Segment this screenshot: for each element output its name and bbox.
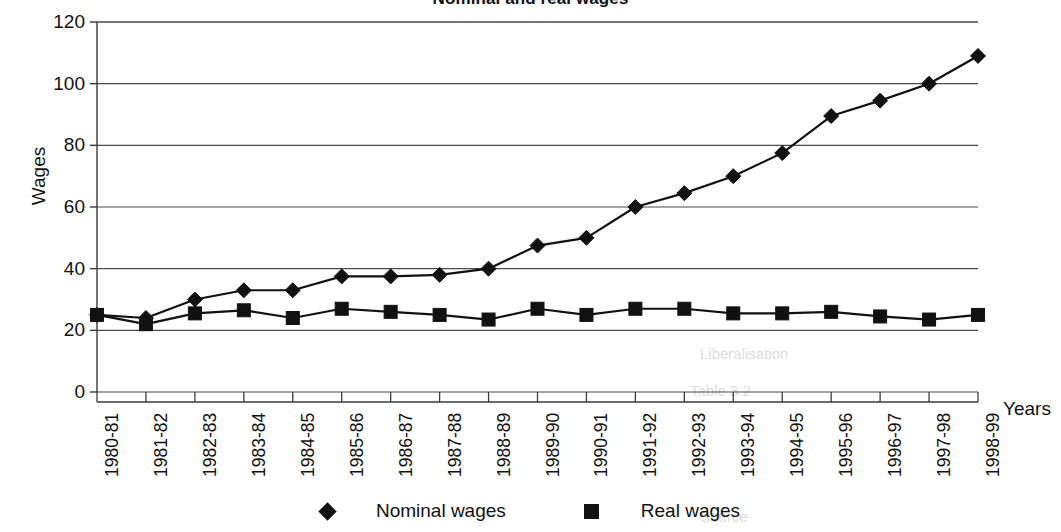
y-tick-label: 0 — [25, 382, 85, 401]
data-point-marker — [432, 267, 447, 282]
y-tick-label: 100 — [25, 74, 85, 93]
data-point-marker — [531, 302, 544, 315]
chart-title: Nominal and real wages — [0, 0, 1061, 9]
data-point-marker — [383, 269, 398, 284]
data-point-marker — [628, 200, 643, 215]
legend-label: Real wages — [641, 500, 740, 522]
data-point-marker — [873, 93, 888, 108]
data-point-marker — [727, 307, 740, 320]
x-tick-label: 1991-92 — [642, 413, 660, 477]
data-point-marker — [922, 76, 937, 91]
x-tick-label: 1988-89 — [496, 413, 514, 477]
plot-canvas — [97, 22, 978, 392]
data-point-marker — [580, 308, 593, 321]
chart-figure: Nominal and real wages LiberalisationTab… — [0, 0, 1061, 532]
data-point-marker — [236, 283, 251, 298]
x-tick-label: 1997-98 — [936, 413, 954, 477]
data-point-marker — [139, 318, 152, 331]
data-point-marker — [825, 305, 838, 318]
data-point-marker — [482, 313, 495, 326]
data-point-marker — [726, 169, 741, 184]
data-point-marker — [91, 308, 104, 321]
x-tick-label: 1981-82 — [153, 413, 171, 477]
x-tick-label: 1989-90 — [545, 413, 563, 477]
data-point-marker — [776, 307, 789, 320]
data-point-marker — [579, 230, 594, 245]
plot-area — [97, 22, 978, 392]
legend-label: Nominal wages — [376, 500, 506, 522]
data-point-marker — [188, 307, 201, 320]
data-point-marker — [481, 261, 496, 276]
y-tick-label: 120 — [25, 12, 85, 31]
legend-entry: Real wages — [584, 500, 740, 522]
data-point-marker — [286, 312, 299, 325]
data-point-marker — [334, 269, 349, 284]
data-point-marker — [237, 304, 250, 317]
data-point-marker — [335, 302, 348, 315]
series-line-diamond — [97, 56, 978, 318]
x-tick-label: 1998-99 — [985, 413, 1003, 477]
diamond-marker-icon — [318, 502, 336, 520]
x-tick-label: 1987-88 — [447, 413, 465, 477]
data-point-marker — [629, 302, 642, 315]
data-point-marker — [678, 302, 691, 315]
x-tick-label: 1982-83 — [202, 413, 220, 477]
x-tick-label: 1993-94 — [740, 413, 758, 477]
data-point-marker — [187, 292, 202, 307]
legend-entry: Nominal wages — [321, 500, 506, 522]
x-axis-title: Years — [1003, 398, 1051, 420]
data-point-marker — [971, 48, 986, 63]
data-point-marker — [285, 283, 300, 298]
data-point-marker — [530, 238, 545, 253]
square-marker-icon — [584, 504, 599, 519]
x-tick-label: 1984-85 — [300, 413, 318, 477]
chart-legend: Nominal wagesReal wages — [0, 500, 1061, 522]
x-tick-label: 1980-81 — [104, 413, 122, 477]
x-tick-label: 1996-97 — [887, 413, 905, 477]
data-point-marker — [874, 310, 887, 323]
data-point-marker — [972, 308, 985, 321]
data-point-marker — [677, 186, 692, 201]
data-point-marker — [384, 305, 397, 318]
data-point-marker — [433, 308, 446, 321]
x-tick-label: 1985-86 — [349, 413, 367, 477]
x-tick-label: 1994-95 — [789, 413, 807, 477]
y-tick-label: 40 — [25, 259, 85, 278]
x-tick-label: 1990-91 — [593, 413, 611, 477]
x-tick-label: 1992-93 — [691, 413, 709, 477]
y-axis-title: Wages — [28, 126, 50, 226]
x-tick-label: 1995-96 — [838, 413, 856, 477]
x-tick-label: 1986-87 — [398, 413, 416, 477]
x-tick-label: 1983-84 — [251, 413, 269, 477]
y-tick-label: 20 — [25, 320, 85, 339]
data-point-marker — [923, 313, 936, 326]
